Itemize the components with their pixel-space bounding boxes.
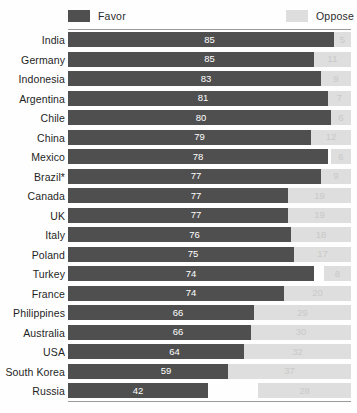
row-label-mexico: Mexico	[0, 151, 65, 163]
bar-track: 7719	[68, 188, 351, 205]
oppose-value: 19	[314, 191, 325, 201]
row-label-chile: Chile	[0, 112, 65, 124]
row-label-italy: Italy	[0, 229, 65, 241]
favor-bar: 74	[68, 286, 314, 301]
bar-track: 4228	[68, 383, 351, 400]
bar-row: UK7719	[0, 207, 357, 227]
favor-bar: 83	[68, 71, 344, 86]
oppose-value: 9	[333, 74, 338, 84]
bar-rows: India855Germany8511Indonesia839Argentina…	[0, 31, 357, 402]
bar-row: Germany8511	[0, 51, 357, 71]
legend-entry-oppose: Oppose	[286, 8, 354, 24]
favor-bar: 75	[68, 247, 318, 262]
row-label-brazil-: Brazil*	[0, 171, 65, 183]
bar-row: Mexico786	[0, 148, 357, 168]
bar-track: 817	[68, 91, 351, 108]
bar-track: 786	[68, 149, 351, 166]
legend-label-favor: Favor	[98, 10, 126, 22]
bar-row: Turkey748	[0, 265, 357, 285]
legend-swatch-favor-icon	[68, 10, 90, 22]
row-label-australia: Australia	[0, 327, 65, 339]
oppose-bar: 32	[244, 344, 351, 359]
favor-value: 42	[133, 386, 144, 396]
bar-track: 6432	[68, 344, 351, 361]
oppose-value: 7	[337, 93, 342, 103]
plot-top-rule	[68, 29, 351, 30]
oppose-bar: 9	[321, 169, 351, 184]
bar-row: China7912	[0, 129, 357, 149]
oppose-bar: 6	[331, 110, 351, 125]
favor-bar: 79	[68, 130, 331, 145]
oppose-value: 30	[296, 327, 307, 337]
favor-bar: 78	[68, 149, 328, 164]
favor-value: 81	[198, 93, 209, 103]
bar-track: 7517	[68, 247, 351, 264]
bar-row: South Korea5937	[0, 363, 357, 383]
bar-row: India855	[0, 31, 357, 51]
favor-value: 79	[194, 132, 205, 142]
oppose-value: 37	[284, 366, 295, 376]
plot-area: India855Germany8511Indonesia839Argentina…	[0, 29, 357, 407]
favor-value: 64	[169, 347, 180, 357]
row-label-germany: Germany	[0, 54, 65, 66]
favor-value: 75	[188, 249, 199, 259]
row-label-south-korea: South Korea	[0, 366, 65, 378]
bar-row: Italy7618	[0, 226, 357, 246]
bar-row: Canada7719	[0, 187, 357, 207]
favor-value: 77	[191, 171, 202, 181]
bar-track: 5937	[68, 364, 351, 381]
legend-label-oppose: Oppose	[316, 10, 354, 22]
oppose-bar: 29	[254, 305, 351, 320]
oppose-value: 17	[317, 249, 328, 259]
favor-value: 77	[191, 191, 202, 201]
favor-value: 66	[173, 327, 184, 337]
row-label-russia: Russia	[0, 385, 65, 397]
row-label-india: India	[0, 34, 65, 46]
oppose-bar: 8	[324, 266, 351, 281]
bar-row: Russia4228	[0, 382, 357, 402]
favor-bar: 77	[68, 169, 324, 184]
favor-value: 74	[186, 269, 197, 279]
bar-track: 8511	[68, 52, 351, 69]
oppose-bar: 19	[288, 208, 351, 223]
oppose-value: 28	[299, 386, 310, 396]
row-label-philippines: Philippines	[0, 307, 65, 319]
favor-bar: 85	[68, 52, 351, 67]
favor-bar: 80	[68, 110, 334, 125]
bar-track: 779	[68, 169, 351, 186]
oppose-value: 8	[335, 269, 340, 279]
oppose-bar: 30	[251, 325, 351, 340]
bar-row: Australia6630	[0, 324, 357, 344]
oppose-value: 11	[328, 54, 338, 64]
favor-value: 77	[191, 210, 202, 220]
row-label-poland: Poland	[0, 249, 65, 261]
favor-bar: 81	[68, 91, 338, 106]
bar-chart: Favor Oppose India855Germany8511Indonesi…	[0, 0, 357, 413]
favor-value: 66	[173, 308, 184, 318]
bar-track: 6629	[68, 305, 351, 322]
bar-row: Indonesia839	[0, 70, 357, 90]
favor-bar: 77	[68, 188, 324, 203]
row-label-uk: UK	[0, 210, 65, 222]
bar-track: 7420	[68, 286, 351, 303]
row-label-indonesia: Indonesia	[0, 73, 65, 85]
bar-row: USA6432	[0, 343, 357, 363]
oppose-bar: 20	[284, 286, 351, 301]
oppose-value: 6	[338, 113, 343, 123]
bar-row: Brazil*779	[0, 168, 357, 188]
bar-row: Poland7517	[0, 246, 357, 266]
bar-track: 855	[68, 32, 351, 49]
row-label-argentina: Argentina	[0, 93, 65, 105]
oppose-value: 20	[312, 288, 323, 298]
oppose-bar: 17	[294, 247, 351, 262]
oppose-value: 6	[338, 152, 343, 162]
favor-bar: 77	[68, 208, 324, 223]
bar-track: 7618	[68, 227, 351, 244]
oppose-value: 19	[314, 210, 325, 220]
oppose-bar: 9	[321, 71, 351, 86]
bar-track: 839	[68, 71, 351, 88]
bar-row: Argentina817	[0, 90, 357, 110]
favor-bar: 42	[68, 383, 208, 398]
oppose-bar: 11	[314, 52, 351, 67]
bar-row: Chile806	[0, 109, 357, 129]
